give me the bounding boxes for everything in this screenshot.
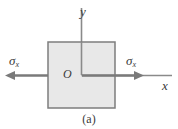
y-axis-label: y (80, 5, 86, 18)
figure-canvas (0, 0, 178, 129)
sigma-x-left-arrowhead (5, 71, 15, 80)
stress-element-figure: σx σx y x O (a) (0, 0, 178, 129)
sigma-x-right-label: σx (126, 54, 136, 67)
x-axis-label: x (162, 79, 168, 92)
origin-label: O (63, 68, 72, 80)
figure-caption: (a) (0, 112, 178, 127)
sigma-x-left-label: σx (9, 54, 19, 67)
sigma-x-right-arrowhead (134, 71, 144, 80)
